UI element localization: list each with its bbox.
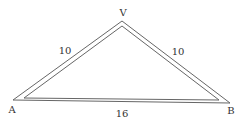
side-label-vb: 10 [172, 46, 185, 57]
vertex-label-v: V [118, 7, 127, 18]
side-label-ab: 16 [116, 108, 129, 119]
vertex-label-a: A [7, 104, 16, 115]
triangle-inner [24, 26, 219, 100]
triangle-diagram: V A B 10 10 16 [0, 0, 243, 124]
vertex-label-b: B [227, 105, 234, 116]
side-label-va: 10 [59, 45, 72, 56]
triangle-outer [13, 21, 230, 103]
